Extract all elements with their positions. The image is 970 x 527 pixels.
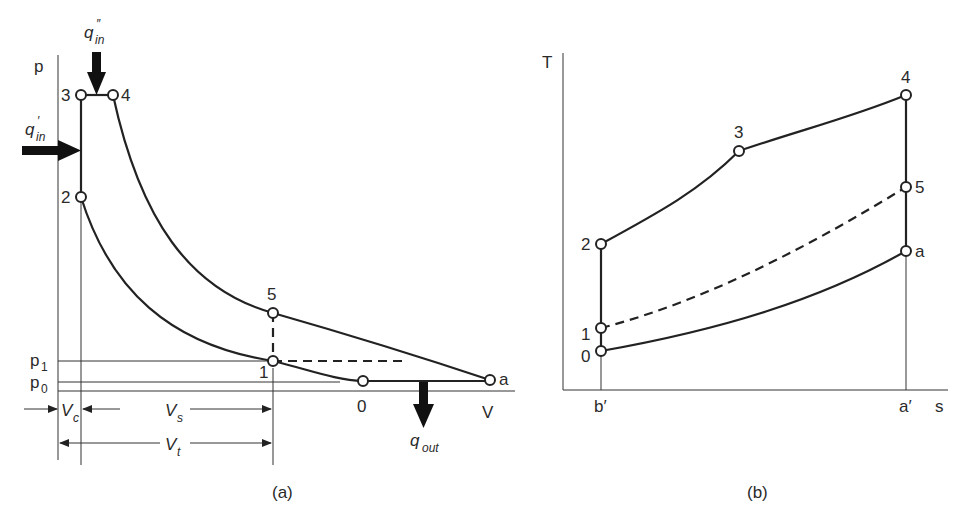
p-axis-label: p <box>34 57 43 76</box>
label-a: a <box>499 370 509 389</box>
svg-text:q: q <box>84 23 94 42</box>
b-prime-label: b′ <box>594 397 607 416</box>
caption-b: (b) <box>747 483 768 502</box>
label-5: 5 <box>267 285 276 304</box>
caption-a: (a) <box>272 483 293 502</box>
svg-text:p: p <box>30 373 39 392</box>
process-2-3 <box>601 151 739 244</box>
label-1: 1 <box>581 325 590 344</box>
label-2: 2 <box>581 235 590 254</box>
state-point-2 <box>596 239 606 249</box>
q-out-label: q out <box>410 431 439 455</box>
pv-diagram: p V p 1 p 0 q ″ in <box>22 17 515 502</box>
label-2: 2 <box>61 188 70 207</box>
t-axis-label: T <box>542 53 552 72</box>
vc-label: V c <box>61 401 79 425</box>
ts-diagram: T s b′ a′ 4 3 5 2 a 1 0 (b) <box>542 53 948 502</box>
svg-text:in: in <box>36 130 46 144</box>
q-out-arrow-icon <box>413 382 434 428</box>
state-point-1 <box>596 323 606 333</box>
q-in-double-arrow-icon <box>87 52 106 95</box>
state-point-4 <box>901 90 911 100</box>
p0-label: p 0 <box>30 373 48 396</box>
thermo-cycle-figure: p V p 1 p 0 q ″ in <box>0 0 970 527</box>
svg-text:p: p <box>30 351 39 370</box>
dashed-1-5 <box>601 187 906 328</box>
label-3: 3 <box>734 123 743 142</box>
svg-text:1: 1 <box>41 360 48 374</box>
expansion-curve-4-5-a <box>113 95 490 380</box>
process-3-4 <box>739 95 906 151</box>
state-point-4 <box>108 90 118 100</box>
state-point-0 <box>596 346 606 356</box>
svg-text:s: s <box>177 411 183 425</box>
svg-text:0: 0 <box>41 382 48 396</box>
s-axis-label: s <box>935 397 944 416</box>
svg-text:in: in <box>95 33 105 47</box>
state-point-5 <box>268 308 278 318</box>
label-1: 1 <box>259 363 268 382</box>
label-4: 4 <box>121 86 130 105</box>
state-point-3 <box>734 146 744 156</box>
label-0: 0 <box>581 347 590 366</box>
vt-label: V t <box>165 435 181 459</box>
q-in-single-label: q ′ in <box>25 114 46 144</box>
state-point-3 <box>76 90 86 100</box>
q-in-single-arrow-icon <box>22 140 81 161</box>
state-point-2 <box>76 192 86 202</box>
state-point-0 <box>358 376 368 386</box>
label-a: a <box>915 242 925 261</box>
process-a-0 <box>601 251 906 351</box>
v-axis-label: V <box>482 403 494 422</box>
state-point-a <box>485 375 495 385</box>
svg-text:′: ′ <box>37 114 40 128</box>
svg-text:q: q <box>410 431 420 450</box>
state-point-a <box>901 246 911 256</box>
vs-label: V s <box>165 401 183 425</box>
label-0: 0 <box>357 397 366 416</box>
svg-text:″: ″ <box>96 17 101 31</box>
a-prime-label: a′ <box>899 397 912 416</box>
svg-text:out: out <box>422 441 439 455</box>
svg-text:t: t <box>177 445 181 459</box>
svg-text:c: c <box>73 411 79 425</box>
q-in-double-label: q ″ in <box>84 17 105 47</box>
label-5: 5 <box>915 178 924 197</box>
svg-text:q: q <box>25 120 35 139</box>
label-4: 4 <box>901 68 910 87</box>
p1-label: p 1 <box>30 351 48 374</box>
state-point-1 <box>268 356 278 366</box>
label-3: 3 <box>61 86 70 105</box>
state-point-5 <box>901 182 911 192</box>
